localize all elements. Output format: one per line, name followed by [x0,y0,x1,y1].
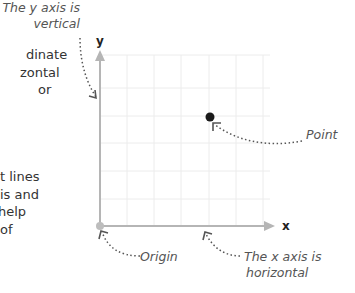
x-axis-arrow-icon [264,221,275,231]
annotation-line: The y axis is [2,0,80,16]
axes [95,50,275,231]
y-axis-label: y [96,34,104,48]
y-callout-arrowhead-icon [89,90,96,98]
y-axis-callout-line [80,38,96,97]
x-axis-label: x [282,219,290,233]
x-axis-annotation: The x axis is horizontal [244,249,322,281]
point-dot [206,113,215,122]
origin-callout-line [102,232,140,256]
point-annotation: Point [306,127,337,143]
annotation-line: The x axis is [244,249,322,265]
x-axis-callout-line [206,234,240,256]
annotation-line: horizontal [246,265,322,281]
y-axis-annotation: The y axis is vertical [2,0,80,32]
origin-annotation: Origin [140,249,178,265]
annotation-line: vertical [2,16,80,32]
grid [100,55,270,226]
point-callout-line [214,124,302,144]
origin-dot [96,222,104,230]
